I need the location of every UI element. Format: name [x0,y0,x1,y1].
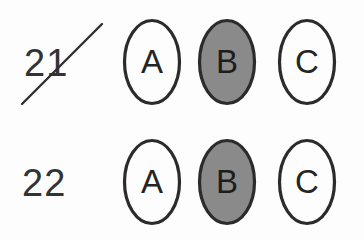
answer-row-21: 21 A B C [0,0,364,120]
answer-bubble-21-b[interactable]: B [197,18,257,106]
answer-row-22: 22 A B C [0,120,364,240]
bubble-letter-22-c: C [295,163,319,200]
row-number-label-22: 22 [22,164,66,202]
answer-bubble-22-a[interactable]: A [122,138,182,226]
answer-sheet: 21 A B C [0,0,364,240]
row-number-label-21: 21 [24,44,68,82]
bubble-letter-22-a: A [141,163,163,200]
bubble-letter-22-b: B [216,163,238,200]
answer-bubble-22-c[interactable]: C [277,138,337,226]
bubble-letter-21-b: B [216,43,238,80]
bubble-letter-21-a: A [141,43,163,80]
bubble-letter-21-c: C [295,43,319,80]
answer-bubble-21-c[interactable]: C [277,18,337,106]
answer-bubble-21-a[interactable]: A [122,18,182,106]
answer-bubble-22-b[interactable]: B [197,138,257,226]
